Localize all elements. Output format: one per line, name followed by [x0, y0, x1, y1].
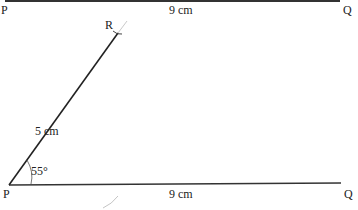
label-r: R [105, 18, 113, 33]
label-bottom-q: Q [344, 187, 353, 202]
label-angle: 55° [31, 164, 48, 179]
side-line-pr [9, 33, 118, 185]
label-top-p: P [1, 3, 8, 18]
arc-mark-r [113, 31, 122, 34]
construction-mark [103, 196, 118, 208]
label-top-q: Q [343, 3, 352, 18]
label-bottom-p: P [3, 187, 10, 202]
label-top-length: 9 cm [169, 3, 193, 18]
construction-diagram [0, 0, 358, 210]
construction-line-extension [118, 21, 127, 33]
label-side-length: 5 cm [35, 124, 59, 139]
base-line-pq [9, 183, 341, 185]
label-bottom-length: 9 cm [169, 187, 193, 202]
